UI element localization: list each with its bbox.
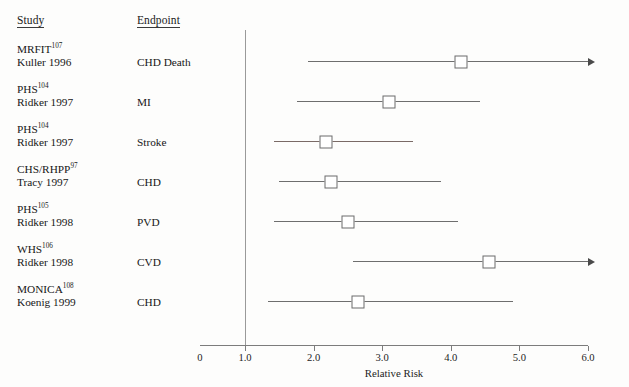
point-estimate-marker <box>352 295 365 308</box>
x-axis-tick <box>588 346 589 351</box>
x-axis-tick-label: 0 <box>197 352 202 363</box>
point-estimate-marker <box>482 255 495 268</box>
confidence-interval-line <box>353 261 588 262</box>
x-axis-tick-label: 4.0 <box>444 352 457 363</box>
confidence-interval-line <box>268 301 513 302</box>
plot-area: 01.02.03.04.05.06.0Relative Risk <box>0 0 629 387</box>
x-axis-tick <box>382 346 383 351</box>
x-axis-tick <box>314 346 315 351</box>
x-axis-tick <box>245 346 246 351</box>
x-axis-tick <box>519 346 520 351</box>
point-estimate-marker <box>319 135 332 148</box>
x-axis-tick-label: 1.0 <box>238 352 251 363</box>
reference-line-rr-1 <box>245 30 246 345</box>
x-axis-tick-label: 3.0 <box>376 352 389 363</box>
confidence-interval-line <box>274 221 458 222</box>
point-estimate-marker <box>324 175 337 188</box>
truncation-arrow-icon <box>588 58 595 66</box>
forest-plot-figure: Study Endpoint MRFIT107Kuller 1996PHS104… <box>0 0 629 387</box>
x-axis-tick <box>451 346 452 351</box>
point-estimate-marker <box>383 95 396 108</box>
confidence-interval-line <box>274 141 413 142</box>
x-axis-title: Relative Risk <box>365 367 423 379</box>
x-axis-tick-label: 2.0 <box>307 352 320 363</box>
truncation-arrow-icon <box>588 258 595 266</box>
confidence-interval-line <box>279 181 440 182</box>
x-axis-tick-label: 5.0 <box>513 352 526 363</box>
x-axis-tick-label: 6.0 <box>581 352 594 363</box>
point-estimate-marker <box>341 215 354 228</box>
confidence-interval-line <box>308 61 588 62</box>
x-axis-line <box>200 345 588 346</box>
point-estimate-marker <box>455 55 468 68</box>
